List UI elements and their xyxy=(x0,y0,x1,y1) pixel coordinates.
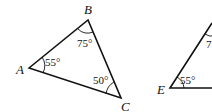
angle-arc-b xyxy=(78,29,93,33)
angle-label-a: 55° xyxy=(45,56,60,68)
diagram-canvas: A B C 55° 75° 50° E 55° 7 xyxy=(0,0,212,112)
vertex-label-a: A xyxy=(15,62,24,77)
angle-label-top-partial: 7 xyxy=(206,38,212,50)
angle-label-e: 55° xyxy=(180,74,195,86)
triangle-e: E 55° 7 xyxy=(156,23,212,97)
vertex-label-b: B xyxy=(84,2,92,17)
angle-label-c: 50° xyxy=(93,74,108,86)
angle-arc-top xyxy=(205,34,212,36)
vertex-label-c: C xyxy=(121,99,130,112)
angle-label-b: 75° xyxy=(77,37,92,49)
vertex-label-e: E xyxy=(156,82,165,97)
triangle-abc: A B C 55° 75° 50° xyxy=(15,2,130,112)
